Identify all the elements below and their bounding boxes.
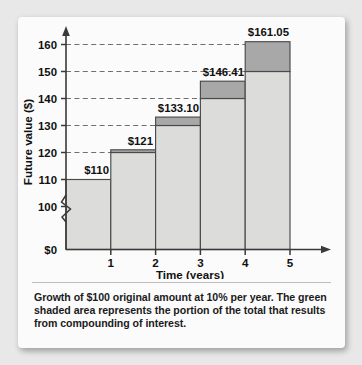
caption-divider: [32, 282, 331, 283]
figure-caption: Growth of $100 original amount at 10% pe…: [34, 291, 330, 330]
xtick-label-4: 4: [242, 256, 249, 269]
x-axis-title: Time (years): [156, 268, 224, 279]
ytick-label-160: 160: [38, 39, 57, 51]
y-axis-arrowhead: [62, 26, 70, 36]
ytick-label-100: 100: [38, 201, 57, 213]
bar-value-label-2: $121: [128, 135, 154, 147]
chart-plot-area: 160 150 140 130 120 110 100 $0 Future va…: [18, 17, 345, 279]
y-axis-title: Future value ($): [21, 99, 34, 185]
xtick-label-5: 5: [287, 256, 294, 269]
ytick-label-130: 130: [38, 120, 57, 132]
x-axis-ticks: [111, 250, 290, 256]
bar-base-3: [156, 126, 201, 250]
x-axis: 1 2 3 4 5 Time (years): [66, 246, 331, 279]
bar-value-label-4: $146.41: [203, 66, 245, 78]
bar-value-label-1: $110: [84, 164, 109, 176]
bar-base-4: [200, 99, 245, 250]
bar-base-2: [111, 153, 156, 250]
x-axis-arrowhead: [321, 246, 331, 254]
bar-chart-svg: 160 150 140 130 120 110 100 $0 Future va…: [18, 17, 345, 279]
y-axis: 160 150 140 130 120 110 100 $0 Future va…: [21, 26, 71, 256]
bar-base-1: [66, 180, 111, 250]
bar-cap-5: [245, 42, 290, 72]
bar-value-label-3: $133.10: [158, 102, 199, 114]
figure-card: 160 150 140 130 120 110 100 $0 Future va…: [18, 17, 345, 348]
bar-value-label-5: $161.05: [248, 26, 290, 38]
bar-cap-4: [200, 81, 245, 98]
bar-cap-3: [156, 117, 201, 125]
bar-cap-2: [111, 150, 156, 153]
bar-base-5: [245, 72, 290, 250]
bars: [66, 42, 290, 250]
ytick-label-120: 120: [38, 147, 57, 159]
ytick-label-0: $0: [44, 244, 57, 256]
ytick-label-140: 140: [38, 93, 57, 105]
xtick-label-1: 1: [108, 256, 115, 269]
ytick-label-110: 110: [39, 174, 57, 186]
ytick-label-150: 150: [38, 66, 57, 78]
